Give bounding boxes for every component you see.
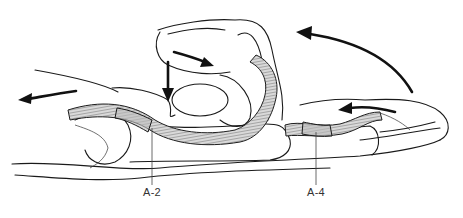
flexion-arc-arrow bbox=[296, 26, 412, 92]
distal-tendon-arrow bbox=[338, 102, 395, 114]
bowstring-arrow bbox=[174, 52, 214, 67]
downward-force-arrow bbox=[162, 62, 174, 102]
finger-pulley-diagram bbox=[0, 0, 463, 218]
a4-pulley bbox=[302, 122, 332, 136]
proximal-pull-arrow bbox=[18, 91, 76, 104]
finger-outline bbox=[12, 70, 448, 180]
a2-label: A-2 bbox=[143, 186, 161, 198]
a4-label: A-4 bbox=[307, 186, 325, 198]
